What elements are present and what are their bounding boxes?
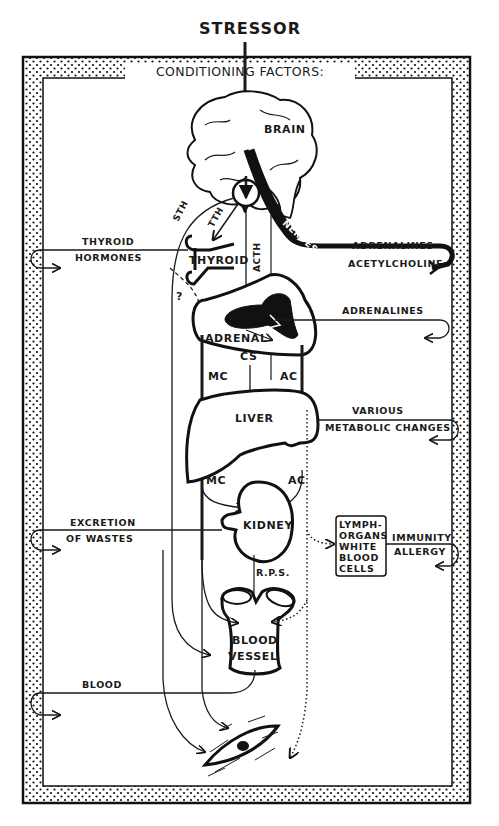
thyroid-label: THYROID [189, 254, 249, 267]
kidney-label: KIDNEY [243, 519, 293, 532]
mc-lower-label: MC [206, 474, 226, 487]
lymph-label-line1: LYMPH- [339, 519, 382, 530]
lymph-label-line5: CELLS [339, 563, 374, 574]
stress-response-diagram: STRESSOR CONDITIONING FACTORS: BRAIN NER… [0, 0, 499, 826]
conditioning-factors-label: CONDITIONING FACTORS: [156, 64, 324, 79]
adrenal-label: ADRENAL [205, 332, 268, 345]
nerves-output-label-line1: ADRENALINES [352, 240, 434, 251]
ac-lower-label: AC [288, 474, 306, 487]
liver-label: LIVER [235, 412, 274, 425]
lymph-output-label-line1: IMMUNITY [392, 532, 452, 543]
brain-label: BRAIN [264, 123, 306, 136]
thyroid-hormones-label-line2: HORMONES [75, 252, 142, 263]
liver-output-label-line1: VARIOUS [352, 405, 404, 416]
adrenal-output-label: ADRENALINES [342, 305, 424, 316]
kidney-output-label-line1: EXCRETION [70, 517, 136, 528]
question-mark-label: ? [176, 290, 183, 303]
blood-vessel-label-line1: BLOOD [232, 634, 278, 647]
blood-vessel-label-line2: VESSEL [228, 650, 278, 663]
lymph-label-line4: BLOOD [339, 552, 379, 563]
ac-upper-label: AC [280, 370, 298, 383]
stressor-title: STRESSOR [199, 19, 301, 38]
lymph-output-label-line2: ALLERGY [394, 546, 446, 557]
liver-output-label-line2: METABOLIC CHANGES [325, 422, 451, 433]
kidney-output-label-line2: OF WASTES [66, 533, 133, 544]
sth-label: STH [171, 199, 190, 223]
acth-label: ACTH [252, 242, 262, 272]
lymph-label-line3: WHITE [339, 541, 377, 552]
lymph-label-line2: ORGANS [339, 530, 388, 541]
tissue-cell-icon [205, 716, 278, 776]
rps-label: R.P.S. [256, 567, 290, 578]
blood-output-label: BLOOD [82, 679, 122, 690]
liver-icon [187, 390, 318, 482]
thyroid-hormones-label-line1: THYROID [82, 236, 134, 247]
nerves-output-label-line2: ACETYLCHOLINE [348, 258, 443, 269]
mc-upper-label: MC [208, 370, 228, 383]
cs-label: CS [240, 350, 257, 363]
